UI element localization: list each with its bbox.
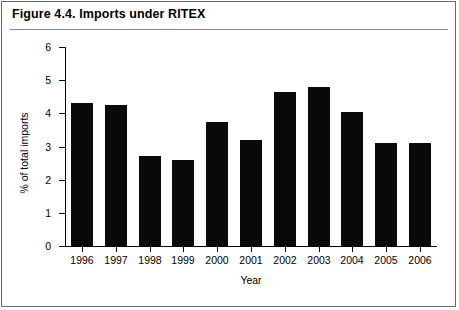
bar	[172, 160, 194, 246]
y-axis-tick-label: 5	[11, 75, 51, 86]
y-axis-tick	[59, 147, 65, 148]
y-axis-tick-label: 0	[11, 241, 51, 252]
bar	[139, 156, 161, 246]
y-axis-tick-label: 2	[11, 175, 51, 186]
y-axis-tick-label: 4	[11, 108, 51, 119]
y-axis-tick	[59, 47, 65, 48]
bar	[375, 143, 397, 246]
bar	[105, 105, 127, 246]
x-axis-tick	[183, 247, 184, 252]
y-axis-tick-label: 6	[11, 42, 51, 53]
x-axis-tick	[150, 247, 151, 252]
x-axis-tick	[116, 247, 117, 252]
y-axis-title: % of total imports	[18, 78, 30, 228]
x-axis-tick	[352, 247, 353, 252]
y-axis-tick	[59, 113, 65, 114]
x-axis-tick-label: 2006	[400, 255, 440, 266]
x-axis-tick	[420, 247, 421, 252]
x-axis-tick	[251, 247, 252, 252]
y-axis-tick-label: 3	[11, 142, 51, 153]
y-axis-tick	[59, 213, 65, 214]
y-axis-tick	[59, 246, 65, 247]
y-axis-line	[65, 47, 66, 247]
x-axis-tick	[285, 247, 286, 252]
x-axis-tick	[217, 247, 218, 252]
bar	[341, 112, 363, 246]
bar	[71, 103, 93, 246]
bar	[274, 92, 296, 246]
bar-chart-plot: 0123456 19961997199819992000200120022003…	[2, 2, 456, 307]
x-axis-title: Year	[65, 274, 437, 286]
y-axis-tick	[59, 180, 65, 181]
y-axis-tick-label: 1	[11, 208, 51, 219]
x-axis-tick	[386, 247, 387, 252]
bar	[409, 143, 431, 246]
figure-container: Figure 4.4. Imports under RITEX 0123456 …	[1, 1, 456, 307]
bar	[308, 87, 330, 246]
x-axis-tick	[82, 247, 83, 252]
y-axis-tick	[59, 80, 65, 81]
x-axis-tick	[319, 247, 320, 252]
bar	[240, 140, 262, 246]
bar	[206, 122, 228, 246]
